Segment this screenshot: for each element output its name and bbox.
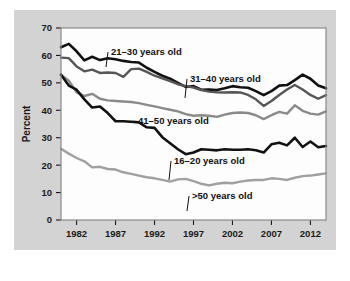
series-label-2: 41–50 years old bbox=[138, 115, 209, 126]
x-tick-label: 2012 bbox=[300, 228, 321, 239]
y-tick-label: 30 bbox=[41, 132, 52, 143]
chart-figure: 010203040506070 198219871992199720022007… bbox=[14, 10, 336, 250]
x-tick-label: 1992 bbox=[144, 228, 165, 239]
x-tick-label: 1997 bbox=[183, 228, 204, 239]
x-tick-label: 1987 bbox=[105, 228, 126, 239]
x-tick-label: 2002 bbox=[222, 228, 243, 239]
x-tick-label: 1982 bbox=[66, 228, 87, 239]
y-axis-title: Percent bbox=[21, 105, 32, 142]
series-label-0: 21–30 years old bbox=[111, 46, 182, 57]
y-axis-ticks: 010203040506070 bbox=[41, 22, 61, 225]
y-tick-label: 10 bbox=[41, 187, 52, 198]
series-label-1: 31–40 years old bbox=[190, 73, 261, 84]
y-tick-label: 20 bbox=[41, 160, 52, 171]
y-tick-label: 40 bbox=[41, 105, 52, 116]
x-axis-ticks: 1982198719921997200220072012 bbox=[66, 220, 321, 239]
y-tick-label: 50 bbox=[41, 77, 52, 88]
line-chart: 010203040506070 198219871992199720022007… bbox=[14, 10, 336, 250]
x-tick-label: 2007 bbox=[261, 228, 282, 239]
y-tick-label: 60 bbox=[41, 50, 52, 61]
series-label-3: 16–20 years old bbox=[174, 155, 245, 166]
y-tick-label: 70 bbox=[41, 22, 52, 33]
series-label-4: >50 years old bbox=[192, 190, 253, 201]
y-tick-label: 0 bbox=[47, 214, 52, 225]
chart-plot-container: 010203040506070 198219871992199720022007… bbox=[14, 10, 336, 250]
